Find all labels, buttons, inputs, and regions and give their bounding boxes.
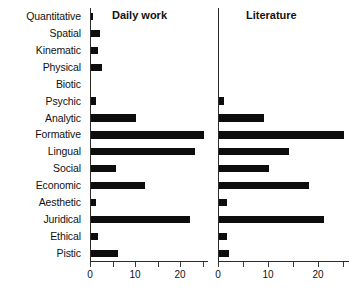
bars-literature [219,8,349,262]
category-label: Economic [0,177,86,194]
bar [219,97,224,104]
bar-row [219,25,349,42]
bar-row [91,126,208,143]
bar [91,114,136,121]
category-axis-labels: QuantitativeSpatialKinematicPhysicalBiot… [0,8,86,262]
bar [91,148,195,155]
bar-row [219,245,349,262]
bar [91,250,118,257]
category-label: Formative [0,126,86,143]
bar [91,233,98,240]
bar-row [219,228,349,245]
bar-row [91,228,208,245]
category-label: Psychic [0,93,86,110]
bar-row [219,93,349,110]
x-axis-tick [135,262,136,267]
x-axis-tick [90,262,91,267]
category-label: Kinematic [0,42,86,59]
x-axis-ticklabels-literature: 01020 [218,269,349,283]
bar-row [91,143,208,160]
x-axis-ticklabel: 20 [312,269,323,280]
category-label: Lingual [0,143,86,160]
category-label: Physical [0,59,86,76]
bar [219,199,227,206]
x-axis-ticklabel: 20 [174,269,185,280]
bar [91,131,204,138]
panel-daily-work: Daily work 01020 [90,8,208,262]
bar-row [219,143,349,160]
bar-row [91,25,208,42]
bar-row [219,8,349,25]
bar-row [219,126,349,143]
x-axis-tick [203,262,204,267]
x-axis-tick [180,262,181,267]
bar-row [219,160,349,177]
category-label: Juridical [0,211,86,228]
x-axis-tick [293,262,294,267]
bar-row [91,76,208,93]
x-axis-ticklabel: 10 [262,269,273,280]
x-axis-tick [218,262,219,267]
bar [91,216,190,223]
category-label: Social [0,160,86,177]
bar [219,250,229,257]
bar-row [219,76,349,93]
category-label: Biotic [0,76,86,93]
category-label: Ethical [0,228,86,245]
bar [219,233,227,240]
bar [91,97,96,104]
bar [91,199,96,206]
x-axis-tick [318,262,319,267]
x-axis-ticklabels-daily: 01020 [90,269,208,283]
bar-row [91,110,208,127]
bar-row [91,93,208,110]
category-label: Aesthetic [0,194,86,211]
bar-row [91,194,208,211]
bar [219,182,309,189]
bar [219,114,264,121]
x-axis-tick [243,262,244,267]
bar-row [91,160,208,177]
category-label: Analytic [0,110,86,127]
bars-daily-work [91,8,208,262]
x-axis-tick [158,262,159,267]
bar [91,165,116,172]
bar-row [91,245,208,262]
bar-row [219,177,349,194]
bar [219,131,344,138]
bar-row [91,177,208,194]
bar [219,165,269,172]
category-label: Spatial [0,25,86,42]
bar [91,47,98,54]
category-label: Quantitative [0,8,86,25]
bar-row [91,59,208,76]
bar-row [219,110,349,127]
panel-literature: Literature 01020 [218,8,349,262]
x-axis-ticklabel: 10 [129,269,140,280]
bar-chart-figure: QuantitativeSpatialKinematicPhysicalBiot… [0,0,354,304]
x-axis-tick [268,262,269,267]
bar [219,216,324,223]
x-axis-ticklabel: 0 [87,269,93,280]
category-label: Pistic [0,245,86,262]
bar-row [91,8,208,25]
bar [91,30,100,37]
x-axis-ticklabel: 0 [215,269,221,280]
x-axis-ticks-literature [218,262,349,268]
bar [219,148,289,155]
bar-row [219,59,349,76]
bar [91,13,93,20]
bar-row [91,42,208,59]
bar-row [219,194,349,211]
bar-row [219,42,349,59]
x-axis-tick [113,262,114,267]
bar-row [219,211,349,228]
bar-row [91,211,208,228]
bar [91,64,102,71]
x-axis-tick [343,262,344,267]
x-axis-ticks-daily [90,262,208,268]
bar [91,182,145,189]
